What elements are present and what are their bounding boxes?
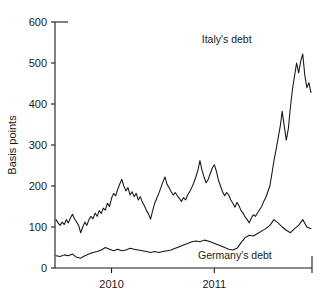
y-tick-label: 200 (29, 180, 47, 192)
series-line-italy (56, 54, 311, 233)
data-series-group (56, 54, 311, 258)
axis-frame (55, 22, 312, 268)
y-axis-ticks: 0100200300400500600 (29, 16, 55, 274)
y-tick-label: 100 (29, 221, 47, 233)
y-tick-label: 300 (29, 139, 47, 151)
x-tick-label: 2011 (203, 278, 227, 290)
annotation-label-italy: Italy's debt (202, 33, 252, 45)
x-axis-ticks: 20102011 (99, 268, 312, 290)
y-axis-title: Basis points (6, 115, 18, 175)
chart-container: 0100200300400500600 20102011 Basis point… (0, 0, 335, 303)
y-tick-label: 400 (29, 98, 47, 110)
y-tick-label: 500 (29, 57, 47, 69)
series-line-germany (56, 220, 311, 259)
annotation-label-germany: Germany's debt (198, 249, 272, 261)
y-tick-label: 600 (29, 16, 47, 28)
y-tick-label: 0 (41, 262, 47, 274)
series-annotations: Italy's debtGermany's debt (198, 33, 272, 261)
line-chart: 0100200300400500600 20102011 Basis point… (0, 0, 335, 303)
x-tick-label: 2010 (99, 278, 123, 290)
